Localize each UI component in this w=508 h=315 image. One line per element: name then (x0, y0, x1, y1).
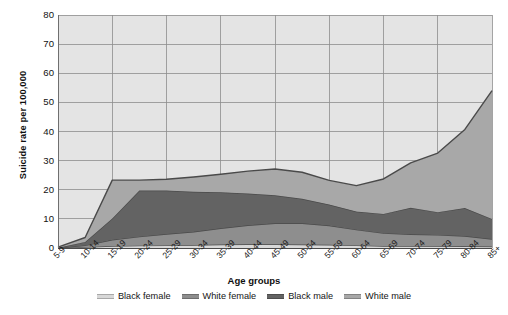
suicide-rate-area-chart: Suicide rate per 100,000 010203040506070… (0, 0, 508, 315)
legend-label: Black female (118, 292, 171, 301)
legend-label: White male (365, 292, 411, 301)
legend-swatch (267, 294, 284, 299)
legend-item[interactable]: Black male (267, 292, 333, 301)
x-axis-label: Age groups (0, 275, 508, 286)
chart-legend: Black femaleWhite femaleBlack maleWhite … (0, 292, 508, 301)
legend-label: Black male (288, 292, 333, 301)
legend-label: White female (203, 292, 257, 301)
legend-swatch (182, 294, 199, 299)
plot-area-svg (0, 0, 508, 315)
legend-swatch (344, 294, 361, 299)
legend-item[interactable]: White female (182, 292, 257, 301)
legend-swatch (97, 294, 114, 299)
legend-item[interactable]: Black female (97, 292, 171, 301)
legend-item[interactable]: White male (344, 292, 411, 301)
